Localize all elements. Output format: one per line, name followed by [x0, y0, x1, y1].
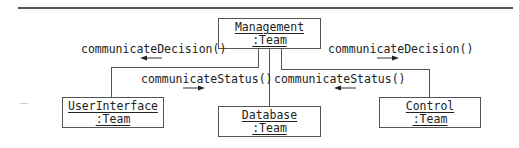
- link-management-control-vertical-bottom: [429, 69, 430, 98]
- arrow-left-icon: [334, 85, 356, 91]
- communication-diagram: Management :Team UserInterface :Team Dat…: [0, 0, 519, 148]
- object-class: :Team: [413, 113, 448, 126]
- object-name: UserInterface: [68, 100, 158, 113]
- object-management-team: Management :Team: [218, 18, 321, 49]
- object-class: :Team: [252, 122, 287, 135]
- message-label-decision-right: communicateDecision(): [328, 43, 473, 56]
- object-userinterface-team: UserInterface :Team: [62, 97, 164, 128]
- object-name: Database: [242, 109, 297, 122]
- link-management-userinterface-vertical-bottom: [111, 67, 112, 98]
- link-management-userinterface-horizontal: [111, 67, 259, 68]
- arrow-right-icon: [377, 55, 399, 61]
- object-class: :Team: [96, 113, 131, 126]
- arrow-right-icon: [183, 85, 205, 91]
- arrow-left-icon: [140, 55, 162, 61]
- object-name: Management: [235, 21, 304, 34]
- object-class: :Team: [252, 34, 287, 47]
- stray-mark: [20, 103, 28, 104]
- link-management-control-horizontal: [281, 69, 430, 70]
- object-control-team: Control :Team: [379, 97, 481, 128]
- top-rule: [18, 7, 513, 9]
- object-name: Control: [406, 100, 454, 113]
- message-label-status-left: communicateStatus(): [141, 73, 273, 86]
- object-database-team: Database :Team: [218, 106, 321, 137]
